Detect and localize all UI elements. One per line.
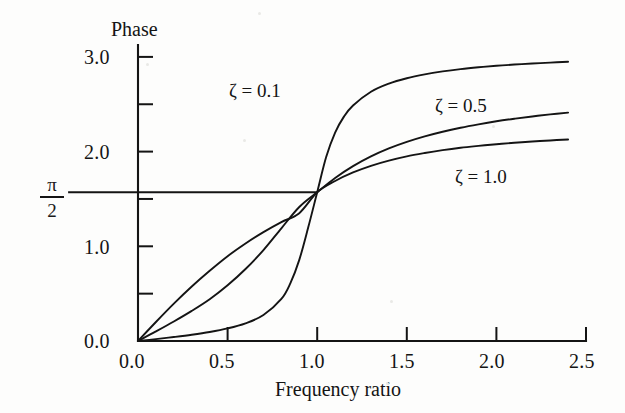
curve-zeta-0-1: [138, 62, 568, 341]
scan-speckle: [492, 125, 495, 128]
x-tick-label-5: 2.5: [569, 350, 595, 373]
pi-over-two-numerator: π: [40, 175, 64, 195]
curve-label-zeta-1-0: ζ = 1.0: [455, 166, 507, 188]
phase-frequency-ratio-figure: Phase 3.0 2.0 1.0 0.0 π 2 0.0 0.5 1.0 1.…: [0, 0, 625, 413]
fraction-bar: [40, 196, 64, 198]
x-axis-title: Frequency ratio: [275, 378, 401, 401]
y-tick-label-1: 1.0: [84, 236, 110, 259]
scan-speckle: [390, 300, 393, 303]
pi-over-two-label: π 2: [40, 175, 64, 220]
curve-label-zeta-0-5: ζ = 0.5: [435, 95, 487, 117]
x-tick-label-4: 2.0: [479, 350, 505, 373]
x-tick-label-2: 1.0: [299, 350, 325, 373]
y-tick-label-0: 0.0: [84, 330, 110, 353]
data-curves: [138, 62, 568, 341]
scan-speckle: [243, 139, 246, 142]
x-tick-label-1: 0.5: [209, 350, 235, 373]
axis-ticks: [138, 57, 586, 341]
scan-speckle: [258, 12, 261, 15]
scan-speckle: [146, 63, 149, 66]
curve-zeta-0-5: [138, 113, 568, 341]
y-axis-title: Phase: [111, 18, 158, 41]
curve-label-zeta-0-1: ζ = 0.1: [229, 80, 281, 102]
y-tick-label-3: 3.0: [84, 46, 110, 69]
pi-over-two-denominator: 2: [40, 200, 64, 220]
x-tick-label-3: 1.5: [389, 350, 415, 373]
x-tick-label-0: 0.0: [119, 350, 145, 373]
y-tick-label-2: 2.0: [84, 141, 110, 164]
scan-speckle: [386, 382, 389, 385]
